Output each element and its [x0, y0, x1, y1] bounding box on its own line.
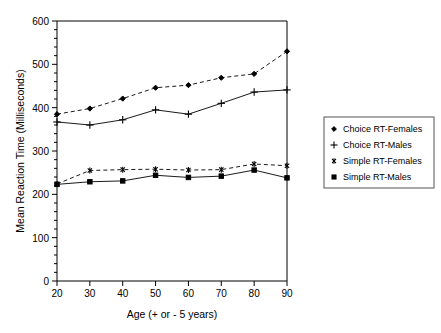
- legend-label: Choice RT-Males: [343, 140, 412, 150]
- data-point-diamond-icon: [87, 106, 92, 111]
- x-tick-label-80: 80: [249, 288, 261, 299]
- legend-entry-3[interactable]: Simple RT-Females: [332, 156, 422, 166]
- series-layer: [53, 49, 290, 187]
- data-point-plus-icon: [283, 86, 290, 93]
- data-point-square-icon: [88, 180, 92, 184]
- x-tick-label-40: 40: [117, 288, 129, 299]
- data-point-square-icon: [219, 174, 223, 178]
- legend-entry-2[interactable]: Choice RT-Males: [331, 140, 413, 150]
- data-point-plus-icon: [152, 106, 159, 113]
- x-tick-label-70: 70: [216, 288, 228, 299]
- data-point-plus-icon: [185, 110, 192, 117]
- x-tick-label-20: 20: [51, 288, 63, 299]
- x-tick-label-90: 90: [281, 288, 293, 299]
- series-line: [57, 51, 287, 114]
- data-point-plus-icon: [218, 100, 225, 107]
- y-axis-title: Mean Reaction Time (Milliseconds): [14, 69, 26, 232]
- x-axis-tick-labels: 20 30 40 50 60 70 80 90: [51, 288, 293, 299]
- y-tick-label-300: 300: [32, 146, 49, 157]
- data-point-square-icon: [121, 179, 125, 183]
- data-point-plus-icon: [86, 121, 93, 128]
- y-tick-label-600: 600: [32, 16, 49, 27]
- legend-entry-4[interactable]: Simple RT-Males: [332, 172, 412, 182]
- series-1: [54, 49, 289, 117]
- data-point-square-icon: [153, 173, 157, 177]
- data-point-diamond-icon: [186, 83, 191, 88]
- data-point-plus-icon: [119, 116, 126, 123]
- chart-legend: Choice RT-FemalesChoice RT-MalesSimple R…: [324, 117, 434, 188]
- data-point-plus-icon: [250, 88, 257, 95]
- x-tick-label-50: 50: [150, 288, 162, 299]
- data-point-diamond-icon: [219, 75, 224, 80]
- chart-figure: 0 100 200 300 400 500 600 20 30 40 50 60…: [0, 0, 441, 333]
- data-point-diamond-icon: [153, 85, 158, 90]
- y-tick-label-400: 400: [32, 103, 49, 114]
- x-axis-ticks: [57, 281, 287, 286]
- data-point-square-icon: [55, 182, 59, 186]
- y-axis-tick-labels: 0 100 200 300 400 500 600: [32, 16, 49, 287]
- square-icon: [332, 175, 336, 179]
- legend-label: Simple RT-Males: [343, 172, 412, 182]
- legend-label: Simple RT-Females: [343, 156, 422, 166]
- x-axis-title: Age (+ or - 5 years): [127, 308, 218, 320]
- y-tick-label-500: 500: [32, 59, 49, 70]
- reaction-time-line-chart: 0 100 200 300 400 500 600 20 30 40 50 60…: [0, 0, 441, 333]
- data-point-square-icon: [285, 176, 289, 180]
- plot-axes: [57, 21, 287, 281]
- x-tick-label-60: 60: [183, 288, 195, 299]
- y-tick-label-0: 0: [43, 276, 49, 287]
- legend-label: Choice RT-Females: [343, 124, 423, 134]
- legend-entry-1[interactable]: Choice RT-Females: [332, 124, 423, 134]
- y-axis-major-ticks: [52, 21, 57, 281]
- data-point-square-icon: [186, 175, 190, 179]
- data-point-diamond-icon: [120, 96, 125, 101]
- y-tick-label-200: 200: [32, 189, 49, 200]
- data-point-square-icon: [252, 168, 256, 172]
- x-tick-label-30: 30: [84, 288, 96, 299]
- y-tick-label-100: 100: [32, 233, 49, 244]
